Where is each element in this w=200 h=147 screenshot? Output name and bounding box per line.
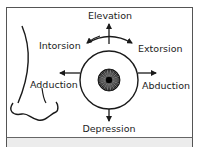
label-abduction: Abduction xyxy=(142,80,190,91)
label-depression: Depression xyxy=(82,123,135,134)
label-elevation: Elevation xyxy=(88,10,132,21)
pupil xyxy=(106,77,112,83)
nose-bridge-outline xyxy=(18,26,28,103)
nose-nostril-outline xyxy=(11,102,58,120)
label-extorsion: Extorsion xyxy=(138,43,183,54)
eye-movement-diagram: Elevation Intorsion Extorsion Adduction … xyxy=(0,0,200,147)
nostril-line xyxy=(42,88,46,103)
label-intorsion: Intorsion xyxy=(39,40,81,51)
label-adduction: Adduction xyxy=(30,79,78,90)
